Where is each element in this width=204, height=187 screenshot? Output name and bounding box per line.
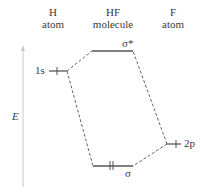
correlation-2p-sigma-star [133, 51, 167, 144]
mo-diagram [0, 0, 204, 187]
axis-label-e: E [12, 110, 19, 122]
correlation-1s-sigma [67, 71, 93, 166]
label-2p: 2p [184, 137, 195, 149]
correlation-1s-sigma-star [67, 51, 92, 71]
energy-axis-arrow-icon [21, 45, 25, 51]
label-1s: 1s [35, 64, 45, 76]
label-sigma-star: σ* [122, 37, 133, 49]
label-sigma: σ [125, 167, 131, 179]
correlation-2p-sigma [133, 144, 167, 166]
